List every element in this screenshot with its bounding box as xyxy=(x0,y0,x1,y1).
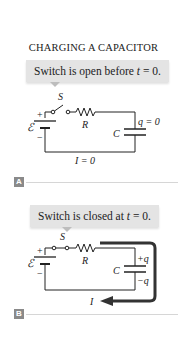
callout-text-end: = 0. xyxy=(130,210,151,222)
capacitor-label: C xyxy=(113,265,120,276)
callout-panel-a: Switch is open before t = 0. xyxy=(26,60,169,82)
charge-bottom-label: −q xyxy=(137,275,149,286)
diagram-title: CHARGING A CAPACITOR xyxy=(0,42,187,53)
callout-panel-b: Switch is closed at t = 0. xyxy=(30,205,159,227)
resistor-label: R xyxy=(81,255,88,266)
charge-top-label: +q xyxy=(137,253,149,264)
plus-sign: + xyxy=(37,109,43,120)
divider-b xyxy=(26,314,178,315)
divider-a xyxy=(26,182,178,183)
circuit-panel-a: S R C ℰ + − q = 0 I = 0 xyxy=(0,85,187,165)
panel-label-a: A xyxy=(14,177,24,187)
resistor-label: R xyxy=(81,119,88,130)
callout-text: Switch is open before xyxy=(34,65,137,77)
emf-label: ℰ xyxy=(27,121,35,133)
minus-sign: − xyxy=(37,268,43,279)
minus-sign: − xyxy=(37,132,43,143)
current-label: I = 0 xyxy=(74,155,95,165)
callout-text: Switch is closed at xyxy=(38,210,127,222)
switch-label: S xyxy=(60,231,65,242)
charge-label: q = 0 xyxy=(138,116,160,127)
capacitor-label: C xyxy=(113,128,120,139)
emf-label: ℰ xyxy=(27,257,35,269)
switch-label: S xyxy=(58,91,63,102)
circuit-panel-b: S R C ℰ + − +q −q I xyxy=(0,228,187,308)
plus-sign: + xyxy=(37,245,43,256)
callout-text-end: = 0. xyxy=(140,65,161,77)
current-label: I xyxy=(89,296,94,307)
panel-label-b: B xyxy=(14,309,24,319)
